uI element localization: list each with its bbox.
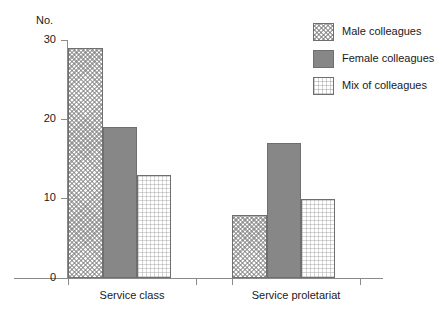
bar-service-proletariat-mix xyxy=(301,199,335,278)
bar-service-class-mix xyxy=(137,175,171,278)
bar-service-proletariat-male xyxy=(232,215,267,278)
x-category-label-service-class: Service class xyxy=(100,289,165,302)
legend-item-mix-of-colleagues: Mix of colleagues xyxy=(313,72,441,99)
bar-chart: No. 30 20 10 0 Service class Service pro… xyxy=(0,0,444,319)
legend-swatch-female-icon xyxy=(313,50,334,68)
chart-legend: Male colleagues Female colleagues Mix of… xyxy=(313,18,441,99)
legend-label-female: Female colleagues xyxy=(342,52,434,65)
legend-label-male: Male colleagues xyxy=(342,25,422,38)
x-category-label-service-proletariat: Service proletariat xyxy=(252,289,341,302)
legend-item-male-colleagues: Male colleagues xyxy=(313,18,441,45)
bar-service-proletariat-female xyxy=(267,143,301,278)
legend-swatch-male-icon xyxy=(313,23,334,41)
legend-item-female-colleagues: Female colleagues xyxy=(313,45,441,72)
legend-swatch-mix-icon xyxy=(313,77,334,95)
bar-service-class-female xyxy=(103,127,137,278)
bar-service-class-male xyxy=(68,48,103,278)
legend-label-mix: Mix of colleagues xyxy=(342,79,427,92)
